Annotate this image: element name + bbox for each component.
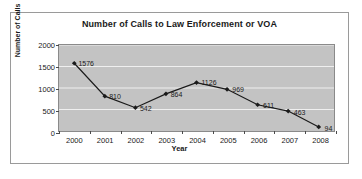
data-point-marker — [255, 102, 260, 107]
x-axis-tick-mark — [244, 131, 245, 134]
y-axis-tick-mark — [56, 45, 59, 46]
y-axis-tick-label: 1000 — [38, 85, 55, 94]
y-axis-tick-mark — [56, 89, 59, 90]
chart-container: Number of Calls to Law Enforcement or VO… — [10, 12, 349, 164]
series-plot — [59, 45, 334, 131]
y-axis-tick-label: 0 — [51, 129, 55, 138]
data-point-marker — [164, 92, 169, 97]
x-axis-tick-mark — [213, 131, 214, 134]
data-point-marker — [316, 125, 321, 130]
data-point-marker — [194, 80, 199, 85]
x-axis-tick-mark — [59, 131, 60, 134]
y-axis-tick-label: 1500 — [38, 63, 55, 72]
x-axis-tick-mark — [182, 131, 183, 134]
series-line — [74, 63, 318, 127]
y-axis-tick-label: 500 — [42, 107, 55, 116]
y-axis-tick-mark — [56, 111, 59, 112]
x-axis-title: Year — [11, 144, 348, 153]
x-axis-tick-mark — [151, 131, 152, 134]
plot-area: 1576810542864112696961146394050010001500… — [58, 44, 335, 132]
x-axis-tick-mark — [305, 131, 306, 134]
x-axis-tick-mark — [121, 131, 122, 134]
chart-title: Number of Calls to Law Enforcement or VO… — [11, 19, 348, 29]
x-axis-tick-mark — [90, 131, 91, 134]
y-axis-tick-label: 2000 — [38, 41, 55, 50]
y-axis-tick-mark — [56, 67, 59, 68]
x-axis-tick-mark — [274, 131, 275, 134]
y-axis-title: Number of Calls — [14, 1, 21, 61]
x-axis-tick-mark — [336, 131, 337, 134]
